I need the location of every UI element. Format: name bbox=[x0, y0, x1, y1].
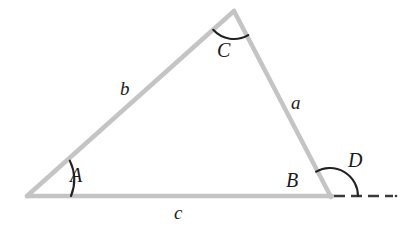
side-label-c: c bbox=[174, 203, 182, 222]
vertex-label-a: A bbox=[70, 165, 82, 185]
geometry-diagram-canvas: b a c A B C D bbox=[0, 0, 412, 236]
side-label-b: b bbox=[120, 79, 130, 98]
side-label-a: a bbox=[291, 93, 301, 112]
dashed-extension-end-dot bbox=[395, 195, 398, 198]
exterior-angle-label-d: D bbox=[348, 150, 362, 170]
vertex-label-c: C bbox=[217, 40, 230, 60]
side-b-line bbox=[27, 11, 234, 196]
triangle-figure bbox=[0, 0, 412, 236]
vertex-label-b: B bbox=[286, 170, 298, 190]
side-a-line bbox=[234, 11, 331, 197]
